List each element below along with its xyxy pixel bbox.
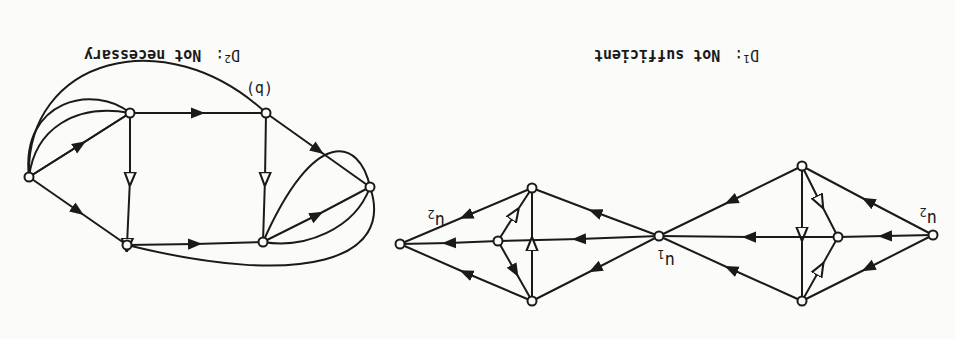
figure: u1 u2 u2 D1:Not sufficient D2:Not necess… bbox=[0, 0, 955, 339]
diagram-d2 bbox=[25, 61, 375, 266]
node-label-u2-left: u2 bbox=[920, 205, 937, 229]
diagram-d1 bbox=[396, 162, 938, 306]
graph-canvas: u1 u2 u2 D1:Not sufficient D2:Not necess… bbox=[0, 0, 955, 339]
node-label-u2-right: u2 bbox=[428, 207, 445, 231]
node-label-u1: u1 bbox=[658, 247, 675, 271]
d1-caption: D1:Not sufficient bbox=[594, 46, 759, 65]
d2-caption: D2:Not necessary bbox=[84, 46, 240, 65]
figure-label: (b) bbox=[246, 80, 273, 98]
